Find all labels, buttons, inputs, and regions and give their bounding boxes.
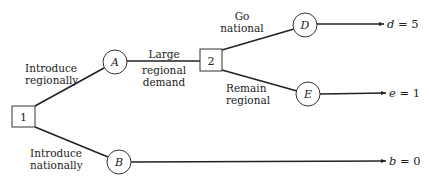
branch-label-introduce-nationally: Introduce nationally bbox=[30, 147, 83, 171]
decision-node-2: 2 bbox=[200, 49, 222, 71]
decision-node-1: 1 bbox=[12, 106, 35, 127]
chance-node-B: B bbox=[107, 150, 131, 174]
outcome-d-var: d bbox=[387, 17, 394, 31]
branch-label-line: Remain bbox=[226, 82, 267, 94]
outcome-e-value: = 1 bbox=[396, 86, 420, 100]
branch-label-line: national bbox=[220, 22, 264, 34]
branch-label-remain-regional: Remain regional bbox=[226, 82, 271, 106]
branch-label-line: regional bbox=[142, 64, 187, 76]
branch-label-line: regional bbox=[226, 94, 271, 106]
decision-tree-diagram: 1 2 A B D E Introduce regionally Introdu… bbox=[0, 0, 429, 190]
chance-node-D-label: D bbox=[300, 19, 310, 32]
branch-label-line: Introduce bbox=[30, 147, 82, 159]
chance-node-B-label: B bbox=[114, 156, 123, 169]
branch-label-go-national: Go national bbox=[220, 10, 264, 34]
chance-node-E: E bbox=[296, 82, 320, 106]
outcome-e: e = 1 bbox=[389, 86, 420, 100]
chance-node-A-label: A bbox=[110, 56, 119, 69]
branch-label-introduce-regionally: Introduce regionally bbox=[25, 62, 78, 86]
chance-node-D: D bbox=[293, 13, 317, 37]
branch-label-line: nationally bbox=[30, 159, 83, 171]
branch-label-large-regional-demand: Large regional demand bbox=[142, 48, 187, 88]
edge-B-outcome-arrow bbox=[131, 161, 386, 162]
edge-E-outcome-arrow bbox=[320, 93, 386, 94]
outcome-b-var: b bbox=[389, 154, 396, 168]
branch-label-line: Large bbox=[148, 48, 179, 60]
decision-node-1-label: 1 bbox=[20, 111, 27, 124]
outcome-d-value: = 5 bbox=[394, 17, 418, 31]
branch-label-line: demand bbox=[143, 76, 186, 88]
outcome-b-value: = 0 bbox=[396, 154, 420, 168]
chance-node-A: A bbox=[103, 50, 127, 74]
outcome-d: d = 5 bbox=[387, 17, 419, 31]
branch-label-line: Go bbox=[235, 10, 250, 22]
branch-label-line: regionally bbox=[25, 74, 78, 86]
branch-label-line: Introduce bbox=[25, 62, 77, 74]
outcome-b: b = 0 bbox=[389, 154, 421, 168]
chance-node-E-label: E bbox=[303, 88, 312, 101]
decision-node-2-label: 2 bbox=[208, 55, 215, 68]
